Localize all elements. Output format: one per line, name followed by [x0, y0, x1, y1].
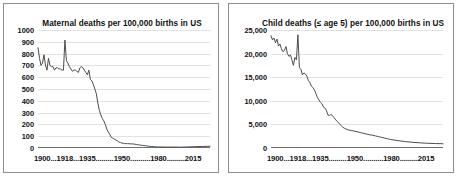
chart-panel-maternal-deaths: Maternal deaths per 100,000 births in US…: [3, 3, 219, 173]
y-axis-tick-label: 800: [22, 49, 34, 58]
y-axis-tick-label: 500: [22, 85, 34, 94]
plot-canvas-maternal: 01002003004005006007008009001000: [38, 30, 210, 148]
y-axis-tick-label: 300: [22, 108, 34, 117]
y-axis-tick-label: 10,000: [244, 96, 267, 105]
xaxis-labels-maternal-deaths: 1900...1918...1935.........1950.........…: [34, 154, 201, 163]
y-axis-tick-label: 5,000: [249, 120, 268, 129]
series-line: [38, 30, 210, 148]
plot-canvas-child: 05,00010,00015,00020,00025,000: [271, 30, 443, 148]
y-axis-tick-label: 0: [30, 144, 34, 153]
plot-area-maternal-deaths: 01002003004005006007008009001000: [38, 30, 210, 148]
y-axis-tick-label: 15,000: [244, 73, 267, 82]
y-axis-tick-label: 20,000: [244, 49, 267, 58]
y-axis-tick-label: 25,000: [244, 26, 267, 35]
y-axis-tick-label: 0: [263, 144, 267, 153]
plot-area-child-deaths: 05,00010,00015,00020,00025,000: [271, 30, 443, 148]
dual-chart-figure: Maternal deaths per 100,000 births in US…: [0, 0, 463, 180]
series-line: [271, 30, 443, 148]
y-axis-tick-label: 200: [22, 120, 34, 129]
y-axis-tick-label: 100: [22, 132, 34, 141]
y-axis-tick-label: 700: [22, 61, 34, 70]
y-axis-tick-label: 600: [22, 73, 34, 82]
chart-panel-child-deaths: Child deaths (≤ age 5) per 100,000 birth…: [228, 3, 454, 173]
chart-title-maternal-deaths: Maternal deaths per 100,000 births in US: [4, 19, 218, 28]
y-axis-tick-label: 1000: [18, 26, 34, 35]
y-axis-tick-label: 400: [22, 96, 34, 105]
xaxis-labels-child-deaths: 1900...1918...1935.........1950.........…: [267, 154, 434, 163]
y-axis-tick-label: 900: [22, 37, 34, 46]
